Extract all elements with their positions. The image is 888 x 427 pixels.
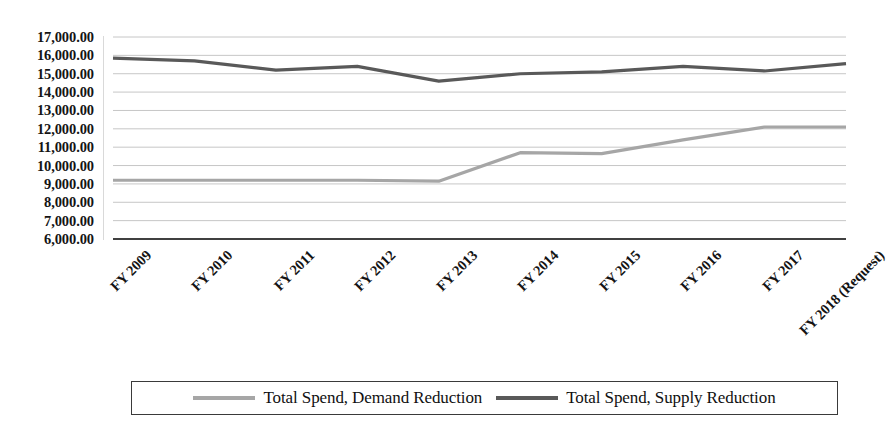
legend-label-demand-reduction: Total Spend, Demand Reduction xyxy=(263,388,482,408)
x-tick-label: FY 2010 xyxy=(189,247,237,295)
y-tick-label: 12,000.00 xyxy=(37,122,94,137)
y-tick-label: 15,000.00 xyxy=(37,66,94,81)
legend-entry-supply-reduction: Total Spend, Supply Reduction xyxy=(496,388,775,408)
y-tick-label: 13,000.00 xyxy=(37,103,94,118)
y-tick-label: 11,000.00 xyxy=(38,140,94,155)
plot-area xyxy=(113,37,846,239)
chart-legend: Total Spend, Demand Reduction Total Spen… xyxy=(131,381,838,415)
legend-swatch-supply-reduction xyxy=(496,396,558,400)
y-axis-line xyxy=(103,36,104,240)
series-lines xyxy=(113,58,846,181)
y-tick-label: 8,000.00 xyxy=(44,195,94,210)
x-tick-label: FY 2016 xyxy=(677,247,725,295)
x-axis: FY 2009FY 2010FY 2011FY 2012FY 2013FY 20… xyxy=(0,239,867,369)
legend-swatch-demand-reduction xyxy=(193,396,255,400)
y-tick-label: 7,000.00 xyxy=(44,213,94,228)
y-tick-label: 17,000.00 xyxy=(37,30,94,45)
x-tick-label: FY 2011 xyxy=(271,247,318,294)
y-tick-label: 9,000.00 xyxy=(44,177,94,192)
y-tick-label: 10,000.00 xyxy=(37,158,94,173)
y-tick-label: 16,000.00 xyxy=(37,48,94,63)
legend-label-supply-reduction: Total Spend, Supply Reduction xyxy=(566,388,775,408)
x-tick-label: FY 2017 xyxy=(759,247,807,295)
plot-svg xyxy=(113,37,846,239)
x-tick-label: FY 2012 xyxy=(351,247,399,295)
x-tick-label: FY 2013 xyxy=(433,247,481,295)
x-tick-label: FY 2018 (Request) xyxy=(796,247,888,339)
x-tick-label: FY 2014 xyxy=(514,247,562,295)
series-line-demand-reduction xyxy=(113,127,846,181)
y-axis: 17,000.0016,000.0015,000.0014,000.0013,0… xyxy=(0,0,100,260)
series-line-supply-reduction xyxy=(113,58,846,81)
x-tick-label: FY 2009 xyxy=(107,247,155,295)
y-tick-label: 14,000.00 xyxy=(37,85,94,100)
legend-entry-demand-reduction: Total Spend, Demand Reduction xyxy=(193,388,482,408)
x-tick-label: FY 2015 xyxy=(596,247,644,295)
gridlines xyxy=(113,37,846,239)
